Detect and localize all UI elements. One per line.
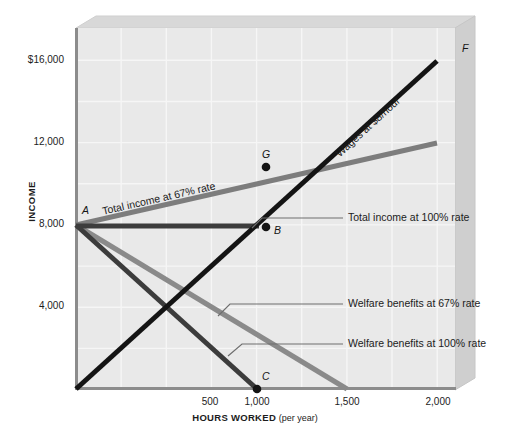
point-marker-g xyxy=(262,163,271,172)
point-label-f: F xyxy=(462,42,468,54)
y-tick-4000: 4,000 xyxy=(0,300,64,311)
y-tick-16000: $16,000 xyxy=(0,54,64,65)
annotation-total-income-100: Total income at 100% rate xyxy=(348,211,469,223)
point-label-a: A xyxy=(82,204,89,216)
y-tick-12000: 12,000 xyxy=(0,136,64,147)
point-marker-c xyxy=(253,385,262,394)
point-label-b: B xyxy=(274,224,281,236)
point-label-c: C xyxy=(262,370,270,382)
x-axis-title: HOURS WORKED (per year) xyxy=(0,412,510,423)
slab-right-face xyxy=(455,16,475,390)
figure-root: $16,000 12,000 8,000 4,000 500 1,000 1,5… xyxy=(0,0,510,442)
x-axis-title-main: HOURS WORKED xyxy=(192,412,276,423)
x-axis-title-sub: (per year) xyxy=(279,413,318,423)
y-axis-title: INCOME xyxy=(26,167,37,237)
annotation-welfare-benefits-100: Welfare benefits at 100% rate xyxy=(348,337,486,349)
point-label-g: G xyxy=(262,148,270,160)
point-marker-b xyxy=(262,223,271,232)
slab-top-face xyxy=(76,16,475,28)
x-tick-1000: 1,000 xyxy=(227,396,287,407)
x-tick-2000: 2,000 xyxy=(408,396,468,407)
annotation-welfare-benefits-67: Welfare benefits at 67% rate xyxy=(348,297,480,309)
x-tick-1500: 1,500 xyxy=(317,396,377,407)
